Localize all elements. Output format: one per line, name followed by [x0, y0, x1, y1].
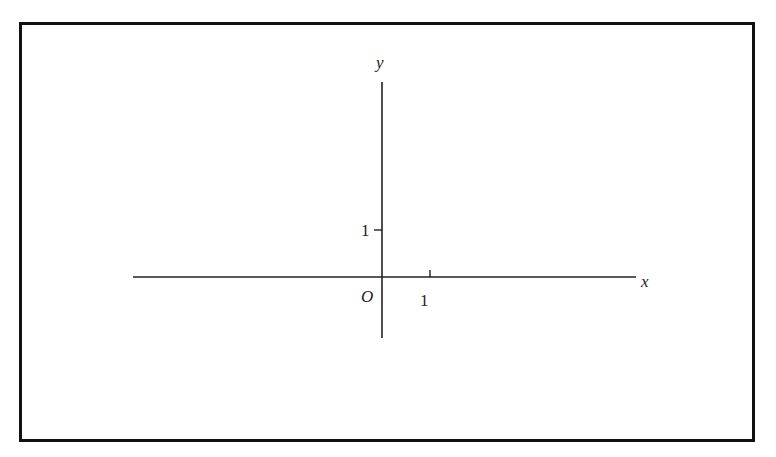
x-axis-label: x [640, 272, 649, 291]
coordinate-plane: y x O 1 1 [0, 0, 776, 457]
origin-label: O [361, 287, 373, 306]
x-tick-label: 1 [420, 291, 429, 310]
y-tick-label: 1 [361, 221, 370, 240]
y-axis-label: y [374, 53, 384, 72]
